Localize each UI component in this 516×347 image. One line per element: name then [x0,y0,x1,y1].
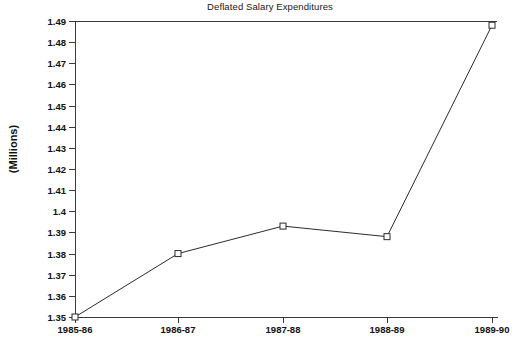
data-point-marker [384,234,390,240]
y-tick-label: 1.44 [48,121,67,132]
x-tick-mark [178,317,179,323]
data-point-marker [489,22,495,28]
y-tick-label: 1.37 [48,269,67,280]
x-tick-label: 1988-89 [370,324,405,335]
series-plot [75,21,497,317]
x-tick-label: 1987-88 [266,324,301,335]
x-tick-mark [283,317,284,323]
y-tick-label: 1.38 [48,248,67,259]
y-tick-label: 1.4 [53,206,66,217]
y-tick-label: 1.49 [48,16,67,27]
y-tick-label: 1.41 [48,185,67,196]
x-tick-mark [387,317,388,323]
y-axis-title: (Millions) [7,109,19,189]
y-tick-label: 1.43 [48,142,67,153]
chart-title-text: Deflated Salary Expenditures [207,1,333,12]
chart-figure: Deflated Salary Expenditures (Millions) … [0,0,516,347]
data-point-marker [175,251,181,257]
y-tick-label: 1.48 [48,37,67,48]
y-tick-label: 1.36 [48,290,67,301]
x-tick-label: 1986-87 [161,324,196,335]
x-axis-line [75,317,498,318]
data-point-marker [280,223,286,229]
plot-area: 1.491.481.471.461.451.441.431.421.411.41… [75,21,497,317]
y-tick-label: 1.42 [48,164,67,175]
y-tick-label: 1.47 [48,58,67,69]
data-point-marker [72,314,78,320]
series-line [75,25,492,317]
x-tick-label: 1989-90 [475,324,510,335]
y-tick-label: 1.45 [48,100,67,111]
chart-title: Deflated Salary Expenditures [0,1,516,12]
x-tick-label: 1985-86 [58,324,93,335]
y-tick-label: 1.35 [48,312,67,323]
y-tick-label: 1.39 [48,227,67,238]
series-markers [72,22,495,320]
x-tick-mark [492,317,493,323]
y-tick-label: 1.46 [48,79,67,90]
